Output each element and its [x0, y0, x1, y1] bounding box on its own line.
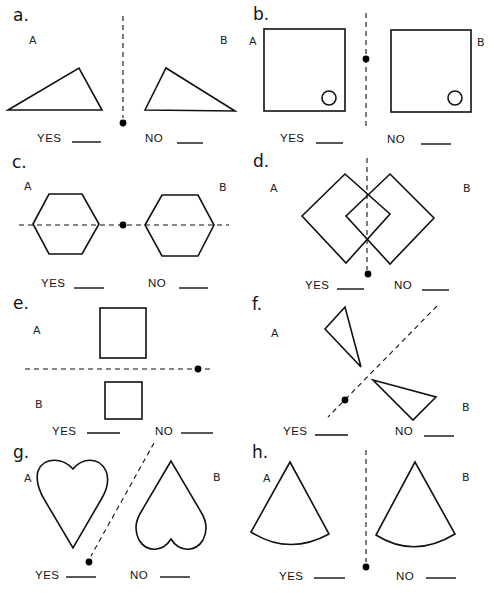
triangle-b: [373, 380, 436, 420]
square-b: [105, 382, 142, 419]
yes-label: YES: [280, 132, 305, 144]
axis-dot: [195, 366, 202, 373]
figure-a-label: A: [270, 182, 278, 195]
figure-a-label: A: [33, 324, 41, 337]
figure-a-label: A: [249, 35, 257, 48]
axis-dot: [120, 222, 127, 229]
yes-label: YES: [305, 279, 330, 291]
no-label: NO: [387, 133, 405, 145]
axis-dot: [342, 397, 349, 404]
figure-b-label: B: [462, 401, 470, 414]
figure-a-label: A: [263, 472, 271, 485]
circle-a: [322, 91, 336, 105]
panel-e: e. A B YES NO: [13, 293, 213, 437]
figure-b-label: B: [462, 471, 470, 484]
no-label: NO: [130, 569, 148, 581]
figure-a-label: A: [29, 34, 37, 47]
figure-a-label: A: [271, 327, 279, 340]
figure-b-label: B: [35, 398, 43, 411]
panel-label: c.: [12, 152, 27, 172]
no-label: NO: [395, 425, 413, 437]
yes-label: YES: [279, 570, 304, 582]
figure-b-label: B: [219, 181, 227, 194]
yes-label: YES: [52, 425, 77, 437]
panel-d: d. A B YES NO: [253, 151, 471, 291]
square-a: [100, 308, 146, 358]
panel-h: h. A B YES NO: [251, 442, 470, 582]
square-a: [264, 29, 345, 111]
panel-f: f. A B YES NO: [252, 294, 470, 437]
axis-dot: [365, 271, 372, 278]
sector-b: [376, 462, 455, 547]
no-label: NO: [394, 279, 412, 291]
axis-dot: [120, 120, 127, 127]
figure-b-label: B: [213, 471, 221, 484]
panel-label: h.: [252, 442, 268, 462]
triangle-b: [145, 68, 235, 111]
heart-a: [37, 460, 108, 548]
panel-c: c. A B YES NO: [12, 152, 229, 289]
panel-a: a. A B YES NO: [8, 5, 235, 144]
no-label: NO: [148, 277, 166, 289]
panel-g: g. A B YES NO: [13, 442, 221, 581]
panel-b: b. A B YES NO: [249, 4, 485, 145]
triangle-a: [325, 307, 361, 367]
circle-b: [448, 91, 462, 105]
figure-b-label: B: [477, 36, 485, 49]
figure-a-label: A: [24, 472, 32, 485]
heart-b: [136, 461, 206, 549]
hexagon-a: [33, 194, 99, 254]
figure-b-label: B: [220, 34, 228, 47]
panel-label: e.: [13, 293, 29, 313]
triangle-a: [8, 68, 102, 110]
panel-label: g.: [13, 442, 29, 462]
panel-label: a.: [13, 5, 29, 25]
figure-a-label: A: [24, 180, 32, 193]
no-label: NO: [155, 425, 173, 437]
figure-b-label: B: [463, 182, 471, 195]
yes-label: YES: [35, 569, 60, 581]
no-label: NO: [145, 132, 163, 144]
yes-label: YES: [37, 132, 62, 144]
panel-label: d.: [253, 151, 269, 171]
axis-dot: [363, 56, 370, 63]
yes-label: YES: [283, 425, 308, 437]
panel-label: b.: [253, 4, 269, 24]
yes-label: YES: [41, 277, 66, 289]
panel-label: f.: [252, 294, 262, 314]
axis-dot: [86, 559, 93, 566]
no-label: NO: [396, 570, 414, 582]
symmetry-worksheet: a. A B YES NO b. A B YES NO c. A B YES: [0, 0, 494, 593]
square-b: [391, 30, 471, 112]
axis-dot: [363, 564, 370, 571]
